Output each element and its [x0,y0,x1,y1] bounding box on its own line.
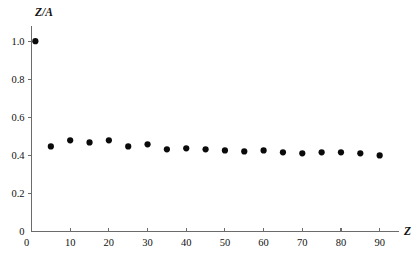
x-tick-label: 30 [142,237,153,248]
x-tick-label: 10 [65,237,76,248]
y-tick-label: 0.6 [11,112,24,123]
y-axis-tick-labels: 00.20.40.60.81.0 [11,36,25,237]
data-point [202,146,208,152]
x-tick-label: 50 [220,237,231,248]
data-point [144,141,150,147]
chart-container: 00.20.40.60.81.0 0102030405060708090 Z/A… [0,0,419,264]
data-point [125,143,131,149]
y-axis-ticks [28,41,32,193]
data-point [319,149,325,155]
y-tick-label: 0.2 [11,188,24,199]
y-tick-label: 1.0 [11,36,24,47]
x-tick-label: 90 [374,237,385,248]
y-tick-label: 0.4 [11,150,25,161]
x-tick-label: 0 [24,237,29,248]
data-point [280,149,286,155]
data-point [48,143,54,149]
data-point [106,137,112,143]
data-point [183,145,189,151]
scatter-plot: 00.20.40.60.81.0 0102030405060708090 Z/A… [0,0,419,264]
data-point [241,148,247,154]
data-point [261,147,267,153]
y-axis-title: Z/A [34,6,53,18]
data-point [164,146,170,152]
x-tick-label: 70 [297,237,308,248]
data-point [338,149,344,155]
data-point-group [32,38,382,158]
data-point [222,147,228,153]
y-tick-label: 0.8 [11,74,24,85]
x-axis-title: Z [403,225,411,237]
data-point [32,38,38,44]
y-tick-label: 0 [19,226,24,237]
x-axis-tick-labels: 0102030405060708090 [24,237,385,248]
data-point [377,152,383,158]
x-tick-label: 80 [336,237,347,248]
data-point [357,150,363,156]
data-point [86,139,92,145]
x-tick-label: 60 [258,237,269,248]
x-tick-label: 40 [181,237,192,248]
data-point [299,150,305,156]
x-tick-label: 20 [104,237,115,248]
data-point [67,137,73,143]
x-axis-ticks [70,228,379,232]
